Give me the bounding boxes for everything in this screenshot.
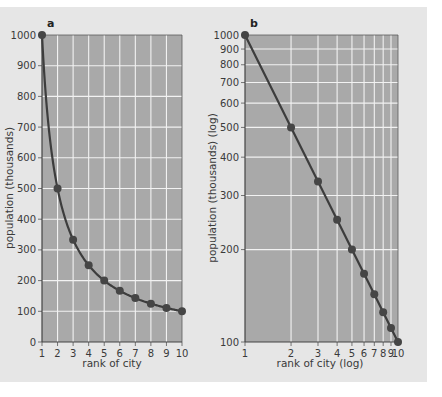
data-point-rank-9 <box>162 304 170 312</box>
y-tick-label: 900 <box>220 44 239 55</box>
rank-size-figure: a 12345678910010020030040050060070080090… <box>0 0 442 397</box>
data-point-rank-6 <box>360 270 368 278</box>
data-point-rank-8 <box>379 308 387 316</box>
data-point-rank-8 <box>147 300 155 308</box>
x-tick-label: 8 <box>148 348 154 359</box>
y-tick-label: 400 <box>17 214 36 225</box>
y-tick-label: 300 <box>17 244 36 255</box>
data-point-rank-7 <box>370 290 378 298</box>
y-tick-label: 500 <box>220 122 239 133</box>
y-tick-label: 700 <box>220 77 239 88</box>
y-tick-label: 800 <box>220 59 239 70</box>
x-tick-label: 10 <box>392 348 405 359</box>
panel-b-log-chart: b 12345678910100200300400500600700800900… <box>206 17 404 369</box>
x-tick-label: 10 <box>176 348 189 359</box>
y-tick-label: 400 <box>220 152 239 163</box>
y-tick-label: 300 <box>220 190 239 201</box>
y-tick-label: 1000 <box>11 30 36 41</box>
data-point-rank-10 <box>178 307 186 315</box>
data-point-rank-6 <box>116 287 124 295</box>
data-point-rank-7 <box>131 294 139 302</box>
y-tick-label: 900 <box>17 60 36 71</box>
x-tick-label: 1 <box>39 348 45 359</box>
x-tick-label: 7 <box>371 348 377 359</box>
data-point-rank-5 <box>100 277 108 285</box>
y-tick-label: 0 <box>30 337 36 348</box>
data-point-rank-3 <box>314 178 322 186</box>
y-tick-label: 200 <box>220 244 239 255</box>
panel-a-linear-chart: a 12345678910010020030040050060070080090… <box>3 17 188 369</box>
y-tick-label: 700 <box>17 122 36 133</box>
data-point-rank-3 <box>69 236 77 244</box>
panel-b-label: b <box>250 17 258 30</box>
data-point-rank-2 <box>287 123 295 131</box>
data-point-rank-9 <box>387 324 395 332</box>
y-tick-label: 200 <box>17 275 36 286</box>
y-tick-label: 800 <box>17 91 36 102</box>
data-point-rank-2 <box>54 185 62 193</box>
panel-b-x-axis-label: rank of city (log) <box>277 357 364 369</box>
y-tick-label: 100 <box>17 306 36 317</box>
y-tick-label: 600 <box>220 98 239 109</box>
y-tick-label: 500 <box>17 183 36 194</box>
panel-a-y-axis-label: population (thousands) <box>3 127 15 249</box>
x-tick-label: 9 <box>163 348 169 359</box>
y-tick-label: 100 <box>220 337 239 348</box>
x-tick-label: 1 <box>242 348 248 359</box>
data-point-rank-4 <box>85 261 93 269</box>
data-point-rank-4 <box>333 216 341 224</box>
x-tick-label: 8 <box>380 348 386 359</box>
panel-a-label: a <box>47 17 54 30</box>
x-tick-label: 2 <box>54 348 60 359</box>
panel-a-x-axis-label: rank of city <box>82 357 141 369</box>
panel-b-y-axis-label: population (thousands) (log) <box>206 113 218 263</box>
y-tick-label: 1000 <box>214 30 239 41</box>
data-point-rank-5 <box>348 246 356 254</box>
data-point-rank-1 <box>241 31 249 39</box>
x-tick-label: 3 <box>70 348 76 359</box>
y-tick-label: 600 <box>17 152 36 163</box>
data-point-rank-10 <box>394 338 402 346</box>
data-point-rank-1 <box>38 31 46 39</box>
